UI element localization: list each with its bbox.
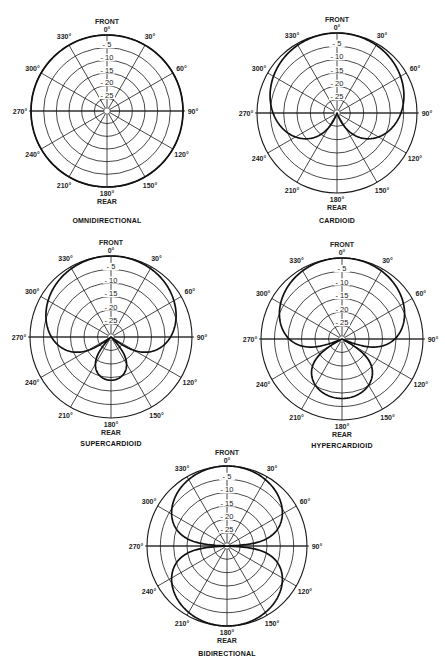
front-label: FRONT [325, 16, 350, 23]
angle-label: 60° [410, 65, 421, 72]
angle-label: 240° [256, 381, 271, 388]
grid-spoke [114, 339, 181, 378]
grid-spoke [345, 299, 412, 338]
ring-label: - 25 [336, 318, 349, 327]
grid-spoke [158, 506, 225, 544]
ring-label: - 20 [331, 79, 344, 88]
angle-label: 30° [382, 257, 393, 264]
grid-spoke [41, 73, 104, 109]
ring-label: - 10 [331, 52, 344, 61]
angle-label: 150° [380, 414, 395, 421]
plot-title: SUPERCARDIOID [80, 440, 141, 447]
ring-label: - 25 [105, 316, 118, 325]
ring-label: - 20 [105, 303, 118, 312]
angle-label: 0° [104, 26, 111, 33]
rear-label: REAR [217, 637, 237, 644]
grid-spoke [41, 113, 104, 149]
angle-label: 180° [335, 423, 350, 430]
front-label: FRONT [330, 241, 355, 248]
angle-label: 210° [289, 414, 304, 421]
angle-label: 120° [298, 588, 313, 595]
angle-label: 330° [175, 465, 190, 472]
angle-label: 300° [25, 65, 40, 72]
angle-label: 60° [416, 290, 427, 297]
angle-label: 90° [197, 334, 208, 341]
angle-label: 210° [57, 182, 72, 189]
plot-cardioid: CARDIOID - 5- 10- 15- 20- 250°30°60°90°1… [239, 16, 433, 224]
plot-supercardioid: SUPERCARDIOID - 5- 10- 15- 20- 250°30°60… [12, 239, 208, 447]
angle-label: 240° [252, 155, 267, 162]
angle-label: 180° [100, 190, 115, 197]
ring-label: - 25 [101, 91, 114, 100]
angle-label: 180° [220, 629, 235, 636]
grid-spoke [110, 73, 173, 109]
angle-label: 60° [300, 498, 311, 505]
rear-label: REAR [97, 198, 117, 205]
plot-omnidirectional: OMNIDIRECTIONAL - 5- 10- 15- 20- 250°30°… [13, 18, 199, 224]
ring-label: - 5 [223, 472, 232, 481]
rear-label: REAR [101, 429, 121, 436]
angle-label: 240° [25, 151, 40, 158]
ring-label: - 15 [101, 66, 114, 75]
ring-label: - 20 [221, 512, 234, 521]
ring-label: - 5 [333, 39, 342, 48]
angle-label: 300° [252, 65, 267, 72]
grid-spoke [230, 506, 297, 544]
angle-label: 30° [151, 255, 162, 262]
plot-title: HYPERCARDIOID [311, 442, 372, 449]
ring-label: - 25 [221, 525, 234, 534]
angle-label: 150° [375, 187, 390, 194]
angle-label: 330° [289, 257, 304, 264]
angle-label: 270° [13, 108, 28, 115]
ring-label: - 10 [221, 485, 234, 494]
grid-spoke [340, 73, 407, 111]
center-hub [104, 108, 110, 114]
angle-label: 120° [408, 155, 423, 162]
angle-label: 90° [428, 336, 439, 343]
plot-bidirectional: BIDIRECTIONAL - 5- 10- 15- 20- 250°30°60… [129, 449, 323, 657]
ring-label: - 5 [103, 40, 112, 49]
ring-label: - 5 [107, 262, 116, 271]
ring-label: - 5 [338, 264, 347, 273]
grid-spoke [41, 339, 108, 378]
grid-spoke [268, 115, 335, 153]
ring-labels: - 5- 10- 15- 20- 25 [99, 40, 115, 100]
polar-pattern-figure: OMNIDIRECTIONAL - 5- 10- 15- 20- 250°30°… [0, 0, 445, 670]
angle-label: 330° [58, 255, 73, 262]
angle-label: 330° [57, 33, 72, 40]
angle-label: 240° [142, 588, 157, 595]
angle-label: 120° [414, 381, 429, 388]
angle-label: 90° [422, 110, 433, 117]
angle-label: 0° [224, 457, 231, 464]
angle-label: 210° [175, 620, 190, 627]
grid-spoke [114, 297, 181, 336]
grid-spoke [230, 548, 297, 586]
angle-label: 150° [143, 182, 158, 189]
angle-label: 30° [267, 465, 278, 472]
grid-spoke [110, 113, 173, 149]
angle-label: 300° [25, 288, 40, 295]
ring-label: - 10 [336, 278, 349, 287]
grid-spoke [69, 114, 105, 177]
angle-label: 270° [239, 110, 254, 117]
angle-label: 270° [12, 334, 27, 341]
grid-spoke [41, 297, 108, 336]
front-label: FRONT [99, 239, 124, 246]
angle-label: 270° [129, 543, 144, 550]
grid-spoke [158, 548, 225, 586]
angle-label: 0° [339, 249, 346, 256]
angle-label: 120° [183, 379, 198, 386]
plot-title: CARDIOID [319, 217, 355, 224]
angle-label: 30° [145, 33, 156, 40]
ring-label: - 15 [336, 291, 349, 300]
angle-label: 240° [25, 379, 40, 386]
ring-label: - 20 [101, 78, 114, 87]
angle-label: 0° [108, 247, 115, 254]
ring-label: - 25 [331, 92, 344, 101]
ring-label: - 15 [105, 289, 118, 298]
angle-label: 30° [377, 32, 388, 39]
grid-spoke [268, 73, 335, 111]
ring-label: - 10 [105, 276, 118, 285]
angle-label: 180° [104, 421, 119, 428]
plot-title: OMNIDIRECTIONAL [72, 217, 142, 224]
